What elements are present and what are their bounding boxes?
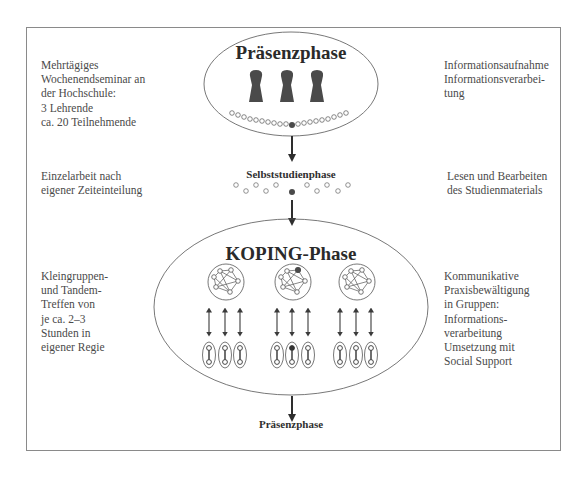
praesenz-right-note: Informationsaufnahme Informationsverarbe… [444,58,549,101]
next-praesenz-title: Präsenzphase [231,418,351,430]
tandem-pairs [203,342,378,368]
praesenz-title: Präsenzphase [226,42,356,64]
selbststudium-right-note: Lesen und Bearbeiten des Studienmaterial… [447,169,547,197]
praesenz-left-note: Mehrtägiges Wochenendseminar an der Hoch… [41,58,145,129]
selbststudium-left-note: Einzelarbeit nach eigener Zeiteinteilung [41,169,142,197]
group-networks [208,264,375,300]
teacher-icons [249,70,324,102]
koping-left-note: Kleingruppen- und Tandem- Treffen von je… [41,269,108,354]
bidirectional-arrows [209,310,371,334]
self-dot [289,122,295,128]
self-dot-selbststudium [289,189,295,195]
participant-dots [230,111,349,127]
self-dot-koping [295,267,301,273]
selbststudium-title: Selbststudienphase [221,168,361,180]
koping-right-note: Kommunikative Praxisbewältigung in Grupp… [444,269,530,368]
koping-title: KOPING-Phase [206,243,376,265]
self-dot-tandem [290,346,295,351]
